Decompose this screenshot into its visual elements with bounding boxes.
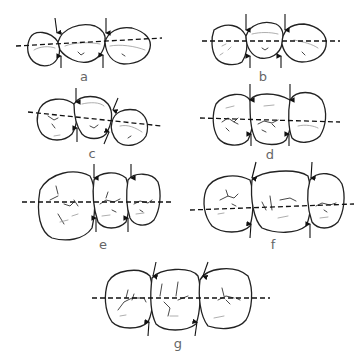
panel-label-d: d <box>266 148 274 161</box>
diagram-canvas <box>0 0 364 360</box>
panel-d <box>200 84 340 146</box>
tooth-c3 <box>111 110 147 146</box>
arrow-down-icon <box>153 262 156 276</box>
arrow-down-icon <box>311 162 312 178</box>
panel-g <box>92 262 270 336</box>
tooth-a1 <box>28 32 60 65</box>
tooth-c1 <box>37 99 77 140</box>
tooth-e2 <box>93 173 129 228</box>
panel-label-b: b <box>259 70 267 83</box>
tooth-f2 <box>251 171 310 232</box>
panel-label-a: a <box>80 70 88 83</box>
tooth-f1 <box>204 176 253 232</box>
tooth-f3 <box>308 174 344 228</box>
panel-c <box>28 88 162 145</box>
panel-f <box>190 162 354 238</box>
panel-label-c: c <box>88 147 95 160</box>
tooth-b3 <box>282 24 326 62</box>
arrow-up-icon <box>148 322 149 336</box>
panel-label-g: g <box>174 337 182 350</box>
tooth-b1 <box>212 25 247 64</box>
tooth-e3 <box>127 174 160 225</box>
arrow-down-icon <box>55 18 57 33</box>
panel-label-e: e <box>99 238 107 251</box>
panel-a <box>16 18 162 68</box>
tooth-d3 <box>289 93 326 143</box>
tooth-d1 <box>213 94 253 145</box>
panel-b <box>202 14 340 68</box>
arrow-down-icon <box>113 98 118 110</box>
panel-e <box>22 164 174 240</box>
arrow-down-icon <box>252 162 256 178</box>
tooth-e1 <box>39 172 95 240</box>
panel-label-f: f <box>271 238 276 251</box>
tooth-g2 <box>151 269 200 330</box>
